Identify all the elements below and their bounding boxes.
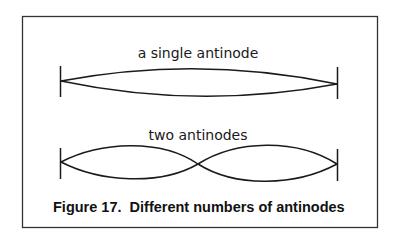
wave-lower-curve [61,81,337,96]
figure-caption: Figure 17. Different numbers of antinode… [53,199,345,215]
two-antinodes-label: two antinodes [148,127,247,143]
two-antinodes-wave [61,145,338,181]
single-antinode-wave [61,66,338,99]
antinodes-figure: a single antinode two antinodes Figure 1… [0,0,396,240]
wave-upper-curve [61,69,337,84]
wave-curve-b [61,145,337,179]
single-antinode-label: a single antinode [138,45,259,61]
